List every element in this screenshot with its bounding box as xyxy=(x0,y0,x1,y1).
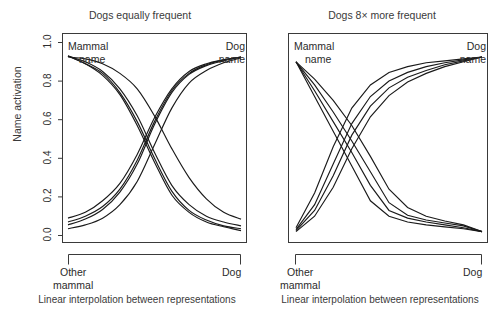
x-axis-label-dog: Dog xyxy=(222,266,241,279)
y-axis-ticks-left xyxy=(58,43,62,236)
y-tick-label-3: 0.6 xyxy=(42,106,53,132)
curve-dog-name-3 xyxy=(68,57,241,225)
annotation-dog-name-line2: name xyxy=(219,53,245,65)
annotation-dog-name-line2: name xyxy=(460,53,486,65)
data-curves-left xyxy=(68,56,241,231)
x-axis-label-other-mammal-line2: mammal xyxy=(53,279,93,291)
panel-dogs-equally-frequent: Dogs equally frequent xyxy=(0,0,252,312)
x-axis-caption-left: Linear interpolation between representat… xyxy=(0,294,252,305)
x-axis-label-other-mammal: Other mammal xyxy=(280,266,320,291)
curve-dog-name-3 xyxy=(296,57,482,231)
y-axis-title: Name activation xyxy=(11,54,23,154)
annotation-dog-name-line1: Dog xyxy=(226,40,245,52)
annotation-dog-name-right: Dog name xyxy=(452,40,486,65)
curve-dog-name-2 xyxy=(296,57,482,230)
annotation-dog-name-line1: Dog xyxy=(467,40,486,52)
annotation-mammal-name-line2: name xyxy=(294,53,331,66)
x-axis-label-dog: Dog xyxy=(463,266,482,279)
panel-dogs-8x-more-frequent: Dogs 8× more frequent Mammal name xyxy=(251,0,503,312)
x-axis-label-other-mammal: Other mammal xyxy=(53,266,93,291)
annotation-mammal-name-line1: Mammal xyxy=(294,40,334,52)
y-tick-label-2: 0.4 xyxy=(42,145,53,171)
curve-mammal-name-4 xyxy=(68,57,241,219)
curve-mammal-name-3 xyxy=(68,56,241,231)
x-axis-bracket-right xyxy=(296,255,482,265)
y-tick-label-1: 0.2 xyxy=(42,183,53,209)
curve-dog-name-1 xyxy=(68,57,241,218)
y-tick-label-5: 1.0 xyxy=(42,29,53,55)
annotation-dog-name-left: Dog name xyxy=(211,40,245,65)
y-tick-label-4: 0.8 xyxy=(42,68,53,94)
x-axis-label-other-mammal-line2: mammal xyxy=(280,279,320,291)
annotation-mammal-name-line1: Mammal xyxy=(68,40,108,52)
x-axis-bracket-left xyxy=(69,255,241,265)
annotation-mammal-name-left: Mammal name xyxy=(68,40,108,65)
annotation-mammal-name-line2: name xyxy=(68,53,105,66)
x-axis-label-other-mammal-line1: Other xyxy=(53,266,86,279)
curve-mammal-name-1 xyxy=(68,56,241,226)
y-tick-label-0: 0.0 xyxy=(42,222,53,248)
annotation-mammal-name-right: Mammal name xyxy=(294,40,334,65)
curve-dog-name-4 xyxy=(296,57,482,232)
x-axis-caption-right: Linear interpolation between representat… xyxy=(251,294,503,305)
curve-dog-name-2 xyxy=(68,57,241,222)
data-curves-right xyxy=(296,57,482,232)
x-axis-label-other-mammal-line1: Other xyxy=(280,266,313,279)
figure-two-panel-line-chart: Dogs equally frequent xyxy=(0,0,503,312)
curve-mammal-name-2 xyxy=(68,56,241,229)
curve-dog-name-4 xyxy=(68,58,241,229)
